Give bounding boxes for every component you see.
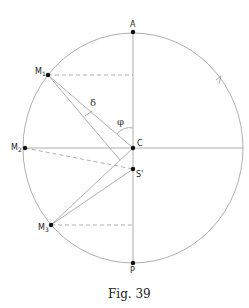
label-s-prime: S' [136, 170, 143, 179]
point-s-prime [131, 167, 135, 171]
delta-angle-mark [85, 111, 92, 116]
m3-to-s [51, 169, 133, 225]
point-p [131, 261, 135, 265]
label-m3: M3 [38, 223, 49, 233]
point-m3 [49, 223, 53, 227]
point-m1 [46, 73, 50, 77]
m1-to-s [48, 75, 120, 160]
m3-to-c [51, 148, 133, 225]
figure-caption: Fig. 39 [108, 287, 151, 301]
label-delta: δ [90, 97, 96, 108]
point-c [131, 146, 135, 150]
phi-angle-arc [117, 128, 133, 134]
m2-to-s-dashed [25, 148, 133, 169]
m1-to-c [48, 75, 133, 148]
label-m1: M1 [35, 67, 46, 77]
label-a: A [130, 20, 136, 29]
point-a [131, 30, 135, 34]
label-m2: M2 [11, 143, 22, 153]
figure-39-diagram: A C P S' M1 M2 M3 δ φ Fig. 39 [0, 0, 249, 308]
label-p: P [130, 266, 135, 275]
direction-arrow-icon [216, 76, 221, 84]
label-c: C [137, 139, 143, 148]
point-m2 [23, 146, 27, 150]
label-phi: φ [117, 116, 124, 127]
